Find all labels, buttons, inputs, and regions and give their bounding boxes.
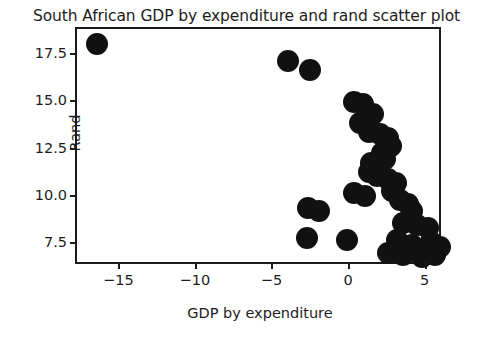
x-tick-label: −15 [103, 272, 134, 288]
x-tick-mark [425, 262, 427, 269]
x-axis-label: GDP by expenditure [77, 305, 443, 321]
scatter-point [86, 33, 108, 55]
scatter-point [277, 50, 299, 72]
x-tick-mark [195, 262, 197, 269]
y-tick-mark [70, 100, 77, 102]
y-tick-label: 7.5 [44, 234, 67, 250]
x-tick-label: 0 [343, 272, 352, 288]
plot-area: Rand GDP by expenditure −15−10−505 7.510… [75, 27, 441, 264]
y-axis-label: Rand [67, 83, 83, 183]
y-tick-label: 17.5 [35, 45, 67, 61]
scatter-point [336, 229, 358, 251]
x-tick-mark [271, 262, 273, 269]
x-tick-mark [348, 262, 350, 269]
scatter-point [354, 185, 376, 207]
page-title: South African GDP by expenditure and ran… [0, 7, 493, 25]
scatter-point [299, 59, 321, 81]
y-tick-mark [70, 148, 77, 150]
x-tick-label: 5 [420, 272, 429, 288]
scatter-points-layer [77, 29, 439, 262]
scatter-point [424, 244, 446, 266]
y-tick-label: 10.0 [35, 187, 67, 203]
figure-canvas: South African GDP by expenditure and ran… [0, 0, 493, 346]
y-tick-mark [70, 53, 77, 55]
y-tick-mark [70, 195, 77, 197]
y-tick-label: 15.0 [35, 92, 67, 108]
scatter-point [296, 227, 318, 249]
x-tick-label: −10 [180, 272, 211, 288]
y-tick-mark [70, 242, 77, 244]
x-tick-mark [118, 262, 120, 269]
x-tick-label: −5 [261, 272, 282, 288]
scatter-point [308, 200, 330, 222]
y-tick-label: 12.5 [35, 140, 67, 156]
